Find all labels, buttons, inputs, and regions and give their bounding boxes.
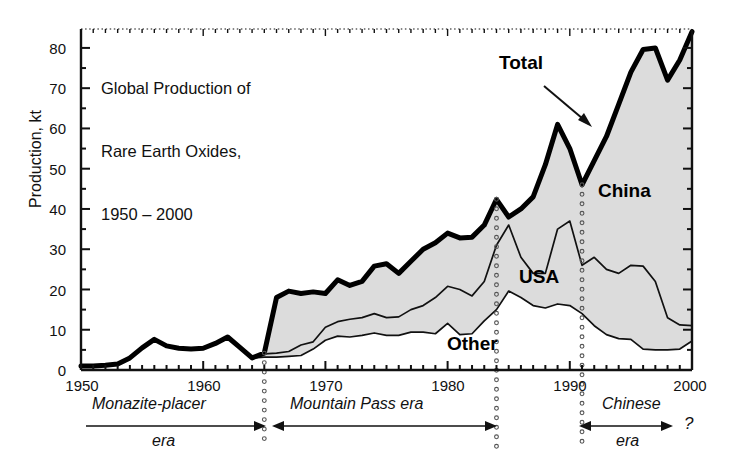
y-tick-label-10: 10 [30, 322, 66, 339]
china-band-label: China [598, 180, 651, 202]
chart-title-line-3: 1950 – 2000 [101, 204, 251, 225]
y-tick-label-60: 60 [30, 120, 66, 137]
era-arrows [86, 421, 673, 431]
y-tick-label-20: 20 [30, 282, 66, 299]
y-tick-label-40: 40 [30, 201, 66, 218]
era-label-mountain-pass: Mountain Pass era [290, 395, 423, 413]
chart-title-line-2: Rare Earth Oxides, [101, 141, 251, 162]
y-tick-label-50: 50 [30, 161, 66, 178]
future-question-mark: ? [684, 414, 693, 434]
chart-title-line-1: Global Production of [101, 78, 251, 99]
x-tick-label-1970: 1970 [309, 377, 342, 394]
era-label-chinese-line-1: Chinese [602, 395, 661, 413]
chart-figure: Production, kt Global Production of Rare… [0, 0, 737, 469]
other-band-label: Other [447, 333, 498, 355]
x-tick-label-1980: 1980 [431, 377, 464, 394]
era-label-chinese-line-2: era [616, 432, 639, 450]
era-label-monazite-line-1: Monazite-placer [92, 395, 206, 413]
usa-band-label: USA [519, 266, 559, 288]
y-tick-label-30: 30 [30, 241, 66, 258]
y-tick-label-0: 0 [30, 362, 66, 379]
x-tick-label-1960: 1960 [187, 377, 220, 394]
y-tick-label-80: 80 [30, 40, 66, 57]
x-tick-label-2000: 2000 [673, 377, 706, 394]
chart-title: Global Production of Rare Earth Oxides, … [101, 36, 251, 267]
y-tick-label-70: 70 [30, 80, 66, 97]
x-tick-label-1950: 1950 [65, 377, 98, 394]
total-annotation-arrow [544, 86, 592, 127]
x-tick-label-1990: 1990 [553, 377, 586, 394]
era-label-monazite-line-2: era [152, 432, 175, 450]
total-series-label: Total [499, 52, 543, 74]
